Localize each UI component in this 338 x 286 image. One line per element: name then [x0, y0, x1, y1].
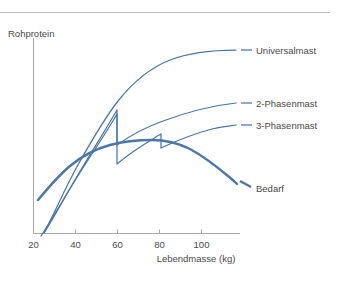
x-tick-label-60: 60 [112, 239, 123, 250]
legend-entry-bedarf[interactable]: Bedarf [240, 181, 284, 194]
legend-label-3-phasenmast: 3-Phasenmast [256, 120, 318, 131]
chart-figure: 20 40 60 80 100 Rohprotein Lebendmasse (… [0, 0, 338, 286]
legend-label-2-phasenmast: 2-Phasenmast [256, 98, 318, 109]
legend-label-universalmast: Universalmast [256, 45, 317, 56]
legend-label-bedarf: Bedarf [256, 183, 284, 194]
legend-entry-universalmast[interactable]: Universalmast [241, 45, 317, 56]
legend-entry-3-phasenmast[interactable]: 3-Phasenmast [241, 120, 318, 131]
x-tick-label-20: 20 [28, 239, 39, 250]
x-tick-label-40: 40 [70, 239, 81, 250]
x-axis-title: Lebendmasse (kg) [157, 253, 236, 264]
y-axis-title: Rohprotein [8, 28, 54, 39]
x-tick-label-80: 80 [154, 239, 165, 250]
x-axis-ticks [34, 230, 202, 234]
series-line-2-phasenmast [44, 103, 236, 233]
x-tick-label-100: 100 [194, 239, 210, 250]
protein-supply-line-chart: 20 40 60 80 100 Rohprotein Lebendmasse (… [0, 0, 338, 286]
legend-entry-2-phasenmast[interactable]: 2-Phasenmast [241, 98, 318, 109]
legend-swatch-bedarf [240, 181, 251, 187]
chart-legend: Universalmast 2-Phasenmast 3-Phasenmast … [240, 45, 318, 194]
